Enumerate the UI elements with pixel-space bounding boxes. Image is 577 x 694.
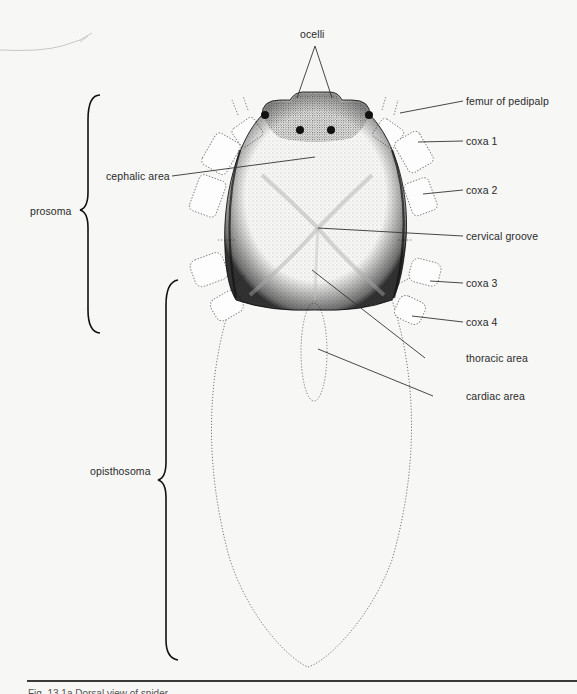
stray-mark — [0, 33, 92, 51]
label-femur-of-pedipalp: femur of pedipalp — [466, 95, 549, 107]
caption-rule — [27, 680, 577, 682]
opisthosoma-brace — [158, 280, 178, 660]
opisthosoma-outline — [211, 300, 411, 667]
figure-caption: Fig. 13.1a Dorsal view of spider — [28, 688, 168, 694]
cardiac-area-shape — [301, 303, 327, 401]
diagram-canvas: ocelli femur of pedipalp cephalic area c… — [0, 0, 577, 694]
ocellus-right-lateral — [365, 111, 373, 119]
label-cardiac-area: cardiac area — [466, 390, 525, 402]
prosoma-brace — [80, 95, 100, 333]
label-prosoma: prosoma — [30, 205, 72, 217]
label-coxa-2: coxa 2 — [466, 184, 498, 196]
label-cephalic-area: cephalic area — [106, 170, 170, 182]
label-opisthosoma: opisthosoma — [90, 465, 151, 477]
ocellus-left-median — [296, 126, 304, 134]
label-ocelli: ocelli — [300, 28, 325, 40]
ocellus-left-lateral — [261, 111, 269, 119]
label-coxa-1: coxa 1 — [466, 135, 498, 147]
ocellus-right-median — [327, 126, 335, 134]
label-thoracic-area: thoracic area — [466, 352, 528, 364]
label-cervical-groove: cervical groove — [466, 230, 538, 242]
label-coxa-3: coxa 3 — [466, 277, 498, 289]
label-coxa-4: coxa 4 — [466, 316, 498, 328]
